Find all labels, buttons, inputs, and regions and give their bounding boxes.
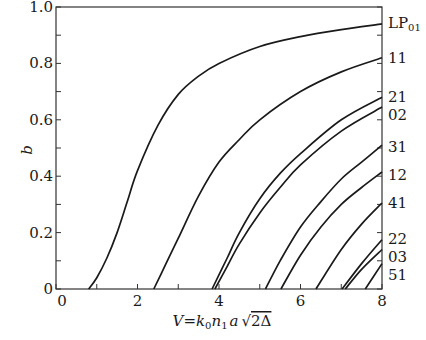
- plot-border: [56, 7, 382, 289]
- x-tick-labels: 02468: [57, 292, 387, 310]
- curve-label-LP01: LP01: [388, 14, 421, 33]
- curve-label-22: 22: [388, 230, 407, 248]
- curve-label-41: 41: [388, 194, 407, 212]
- y-tick-label: 0.8: [29, 54, 53, 72]
- x-axis-title: V=k0n1a√2Δ: [173, 312, 272, 331]
- axis-ticks: [56, 7, 382, 289]
- curve-41: [316, 203, 382, 289]
- curve-label-12: 12: [388, 166, 407, 184]
- x-tick-label: 4: [214, 292, 224, 310]
- x-tick-label: 6: [296, 292, 306, 310]
- y-tick-label: 0.2: [29, 224, 53, 242]
- curve-label-11: 11: [388, 49, 407, 67]
- curve-label-03: 03: [388, 248, 407, 266]
- mode-labels: LP01112102311241220351: [388, 14, 421, 284]
- y-tick-label: 0: [43, 280, 53, 298]
- plot-frame: [56, 7, 382, 289]
- b-vs-V-chart: 00.20.40.60.81.0 02468 LP011121023112412…: [0, 0, 426, 340]
- y-axis-title: b: [18, 145, 36, 155]
- curve-22: [342, 240, 382, 289]
- curve-label-31: 31: [388, 138, 407, 156]
- curve-03: [345, 250, 382, 290]
- curve-02: [215, 107, 382, 289]
- curve-label-21: 21: [388, 88, 407, 106]
- curve-label-02: 02: [388, 106, 407, 124]
- curve-51: [365, 264, 382, 289]
- x-tick-label: 2: [133, 292, 143, 310]
- x-tick-label: 8: [377, 292, 387, 310]
- curve-label-51: 51: [388, 266, 407, 284]
- y-tick-label: 0.4: [29, 167, 53, 185]
- y-tick-label: 1.0: [29, 0, 53, 16]
- y-tick-label: 0.6: [29, 111, 53, 129]
- x-tick-label: 0: [57, 292, 67, 310]
- mode-curves: [89, 24, 382, 289]
